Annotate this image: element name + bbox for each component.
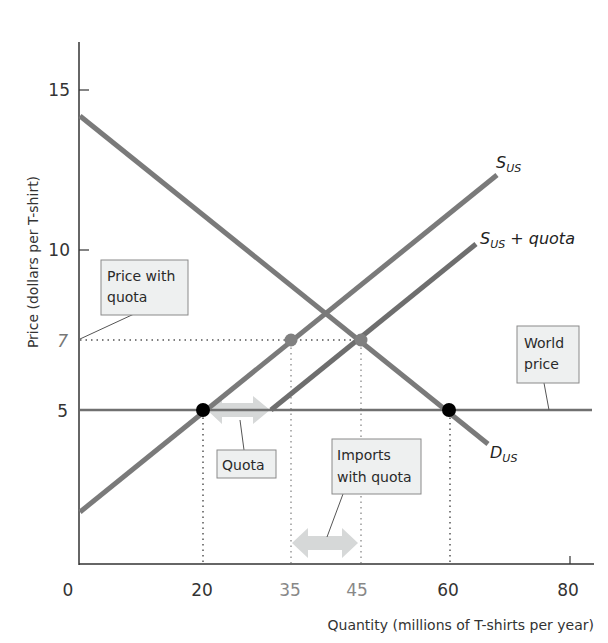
y-tick-10: 10: [48, 240, 70, 260]
svg-text:Price with: Price with: [107, 268, 175, 284]
x-tick-0: 0: [63, 580, 74, 600]
svg-text:price: price: [524, 356, 559, 372]
y-tick-5: 5: [57, 401, 68, 421]
y-axis-title: Price (dollars per T-shirt): [25, 176, 41, 348]
quota-chart: Price (dollars per T-shirt) 15 10 7 5 0 …: [0, 0, 608, 643]
supply-us-label: SUS: [496, 153, 521, 175]
imports-with-quota-callout: Imports with quota: [327, 439, 421, 537]
y-tick-7: 7: [57, 331, 68, 351]
svg-text:Imports: Imports: [337, 447, 391, 463]
quota-callout: Quota: [217, 420, 276, 478]
supply-with-quota-curve: [271, 244, 476, 410]
x-tick-35: 35: [279, 580, 301, 600]
y-ticks: 15 10 7 5: [48, 80, 89, 421]
svg-text:Quota: Quota: [222, 457, 265, 473]
x-ticks: 0 20 35 45 60 80: [63, 556, 579, 600]
price-with-quota-callout: Price with quota: [80, 260, 188, 339]
supply-quota-label: SUS + quota: [480, 229, 575, 251]
x-tick-45: 45: [346, 580, 368, 600]
world-price-callout: World price: [517, 326, 579, 410]
svg-text:quota: quota: [107, 289, 147, 305]
svg-text:with quota: with quota: [337, 469, 412, 485]
x-tick-20: 20: [191, 580, 213, 600]
point-demand-quota: [355, 334, 368, 347]
x-axis-title: Quantity (millions of T-shirts per year): [328, 617, 595, 633]
demand-us-label: DUS: [490, 443, 517, 465]
point-supply-quota: [285, 334, 298, 347]
point-demand-world: [442, 403, 456, 417]
x-tick-80: 80: [557, 580, 579, 600]
point-supply-world: [196, 403, 210, 417]
svg-text:World: World: [524, 335, 564, 351]
y-tick-15: 15: [48, 80, 70, 100]
x-tick-60: 60: [437, 580, 459, 600]
imports-arrow: [292, 528, 358, 558]
